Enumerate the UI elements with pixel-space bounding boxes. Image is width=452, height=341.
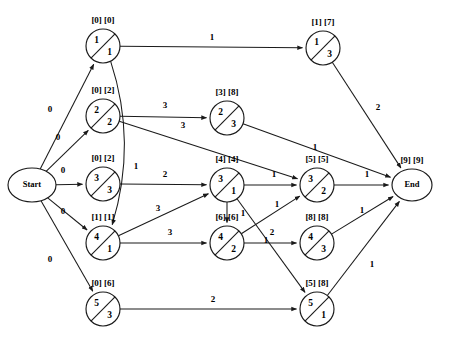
node-n2[interactable]: 22 <box>86 99 120 133</box>
edge-weight-start-to-n5: 0 <box>48 254 53 264</box>
edge-n1-to-m1 <box>120 46 303 48</box>
node-number-n1: 1 <box>94 35 99 45</box>
node-duration-n2: 2 <box>107 117 112 127</box>
node-duration-p4: 3 <box>321 244 326 254</box>
node-times-m1: [1] [7] <box>311 17 334 27</box>
node-duration-m4: 2 <box>231 244 236 254</box>
node-number-p4: 4 <box>308 232 313 242</box>
edge-weight-n4-to-m3: 3 <box>156 203 161 213</box>
edge-weight-p4-to-end: 1 <box>360 205 365 215</box>
node-duration-n4: 1 <box>107 244 112 254</box>
diagram-canvas: Start112233415313233142513243End 0000011… <box>0 0 452 341</box>
node-times-m2: [3] [8] <box>215 87 238 97</box>
node-times-m4: [6] [6] <box>215 212 238 222</box>
edge-n2-to-p3 <box>119 121 297 179</box>
edge-weight-n2-to-m2: 3 <box>163 100 168 110</box>
edge-weight-start-to-n1: 0 <box>48 104 53 114</box>
edge-n2-to-m2 <box>120 116 207 117</box>
node-n5[interactable]: 53 <box>86 292 120 326</box>
node-times-p4: [8] [8] <box>305 212 328 222</box>
edge-weight-m3-to-p3: 1 <box>272 169 277 179</box>
node-m4[interactable]: 42 <box>210 226 244 260</box>
edge-weight-p3-to-end: 1 <box>365 169 370 179</box>
node-m1[interactable]: 13 <box>306 31 340 65</box>
node-n4[interactable]: 41 <box>86 226 120 260</box>
node-number-m5: 5 <box>308 298 313 308</box>
node-number-n5: 5 <box>94 298 99 308</box>
activity-network-diagram: Start112233415313233142513243End 0000011… <box>0 0 452 341</box>
node-duration-n1: 1 <box>107 47 112 57</box>
edge-weight-m4-to-p4: 2 <box>270 227 275 237</box>
node-n1[interactable]: 11 <box>86 29 120 63</box>
node-duration-m5: 1 <box>321 310 326 320</box>
edge-start-to-n2 <box>46 130 88 171</box>
node-times-p3: [5] [5] <box>305 154 328 164</box>
node-duration-n3: 3 <box>107 185 112 195</box>
edge-weight-m5-to-end: 1 <box>370 259 375 269</box>
node-number-n3: 3 <box>94 173 99 183</box>
edge-n4-to-m3 <box>118 194 208 236</box>
edge-start-to-n5 <box>41 201 93 291</box>
edge-weight-n1-to-n4: 1 <box>134 161 139 171</box>
node-duration-m3: 1 <box>231 186 236 196</box>
node-m5[interactable]: 51 <box>300 292 334 326</box>
edge-weight-m1-to-end: 2 <box>376 102 381 112</box>
edge-weight-m3-to-m4: 1 <box>241 208 246 218</box>
node-number-n2: 2 <box>94 105 99 115</box>
edge-weight-n1-to-m1: 1 <box>210 32 215 42</box>
edge-p4-to-end <box>332 197 394 235</box>
edge-m1-to-end <box>332 62 401 168</box>
node-times-n5: [0] [6] <box>91 278 114 288</box>
edge-weight-m2-to-end: 1 <box>313 142 318 152</box>
edge-weight-n4-to-m4: 3 <box>168 227 173 237</box>
node-n3[interactable]: 33 <box>86 167 120 201</box>
node-times-n2: [0] [2] <box>91 85 114 95</box>
node-times-end: [9] [9] <box>400 155 423 165</box>
edge-weight-n5-to-m5: 2 <box>211 294 216 304</box>
edge-m5-to-end <box>327 201 399 295</box>
node-start[interactable]: Start <box>8 168 56 202</box>
edge-weight-m3-to-m5: 1 <box>264 235 269 245</box>
edge-m3-to-m5 <box>237 199 305 293</box>
node-m2[interactable]: 23 <box>210 101 244 135</box>
node-label-end: End <box>404 179 419 189</box>
node-times-n4: [1] [1] <box>91 212 114 222</box>
node-number-p3: 3 <box>308 174 313 184</box>
node-number-m4: 4 <box>218 232 223 242</box>
node-times-m3: [4] [4] <box>215 154 238 164</box>
edge-weight-n3-to-m3: 2 <box>163 169 168 179</box>
node-duration-m1: 3 <box>327 49 332 59</box>
node-number-n4: 4 <box>94 232 99 242</box>
node-number-m3: 3 <box>218 174 223 184</box>
edge-weight-start-to-n2: 0 <box>56 132 61 142</box>
node-label-start: Start <box>23 179 42 189</box>
edge-weight-start-to-n4: 0 <box>61 206 66 216</box>
edge-n3-to-m3 <box>120 184 207 185</box>
node-duration-n5: 3 <box>107 310 112 320</box>
node-m3[interactable]: 31 <box>210 168 244 202</box>
node-p3[interactable]: 32 <box>300 168 334 202</box>
edge-weight-m4-to-p3: 1 <box>275 199 280 209</box>
node-times-m5: [5] [8] <box>305 278 328 288</box>
node-times-n1: [0] [0] <box>91 15 114 25</box>
node-duration-m2: 3 <box>231 119 236 129</box>
edge-weight-n2-to-p3: 3 <box>181 120 186 130</box>
node-number-m2: 2 <box>218 107 223 117</box>
edge-weight-start-to-n3: 0 <box>61 165 66 175</box>
edge-start-to-n4 <box>48 198 87 230</box>
node-times-n3: [0] [2] <box>91 153 114 163</box>
node-duration-p3: 2 <box>321 186 326 196</box>
node-number-m1: 1 <box>314 37 319 47</box>
node-end[interactable]: End <box>392 169 432 201</box>
node-p4[interactable]: 43 <box>300 226 334 260</box>
